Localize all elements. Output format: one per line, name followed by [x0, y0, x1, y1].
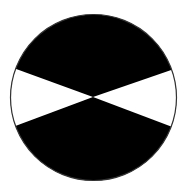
disk-diagram	[0, 0, 186, 188]
